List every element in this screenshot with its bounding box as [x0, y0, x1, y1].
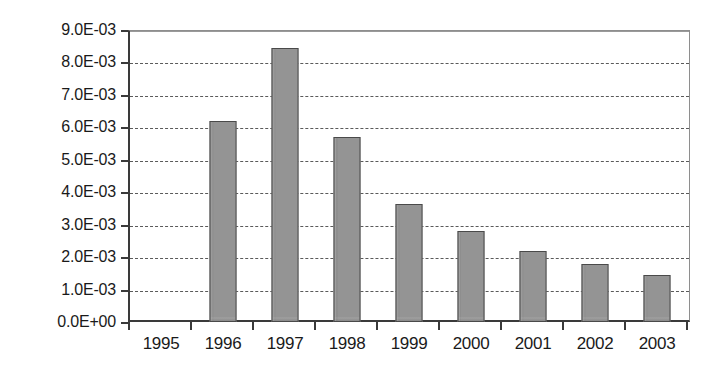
y-axis-tick-mark: [121, 160, 128, 162]
y-axis-tick-mark: [121, 95, 128, 97]
bar-slot: [316, 30, 378, 322]
x-axis-tick-mark: [252, 322, 254, 330]
y-axis-tick-label: 5.0E-03: [6, 151, 116, 169]
y-axis-tick-label: 7.0E-03: [6, 86, 116, 104]
bar-2001[interactable]: [520, 251, 547, 322]
y-axis-tick-mark: [121, 192, 128, 194]
y-axis-tick-mark: [121, 290, 128, 292]
bar-chart: 0.0E+001.0E-032.0E-033.0E-034.0E-035.0E-…: [0, 0, 724, 372]
bar-slot: [440, 30, 502, 322]
bar-2002[interactable]: [582, 264, 609, 322]
bar-1997[interactable]: [272, 48, 299, 322]
y-axis-tick-label: 8.0E-03: [6, 53, 116, 71]
x-axis-tick-label: 2002: [564, 334, 626, 354]
x-axis-tick-label: 2000: [440, 334, 502, 354]
bars-layer: [130, 30, 690, 322]
y-axis-tick-mark: [121, 30, 128, 32]
bar-1999[interactable]: [396, 204, 423, 322]
bar-slot: [130, 30, 192, 322]
bar-slot: [626, 30, 688, 322]
x-axis-tick-mark: [190, 322, 192, 330]
x-axis-tick-label: 1998: [316, 334, 378, 354]
y-axis-tick-label: 1.0E-03: [6, 281, 116, 299]
bar-1998[interactable]: [334, 137, 361, 322]
x-axis-tick-label: 1995: [130, 334, 192, 354]
x-axis-tick-label: 2001: [502, 334, 564, 354]
bar-slot: [254, 30, 316, 322]
y-axis-tick-mark: [121, 62, 128, 64]
x-axis-tick-mark: [438, 322, 440, 330]
y-axis-tick-label: 3.0E-03: [6, 216, 116, 234]
y-axis-tick-label: 6.0E-03: [6, 118, 116, 136]
x-axis-tick-label: 2003: [626, 334, 688, 354]
x-axis-tick-mark: [686, 322, 688, 330]
x-axis-tick-mark: [376, 322, 378, 330]
y-axis-tick-mark: [121, 127, 128, 129]
y-axis-tick-label: 0.0E+00: [6, 313, 116, 331]
x-axis-tick-mark: [128, 322, 130, 330]
y-axis-tick-mark: [121, 322, 128, 324]
x-axis-tick-mark: [500, 322, 502, 330]
y-axis-tick-label: 9.0E-03: [6, 21, 116, 39]
bar-slot: [378, 30, 440, 322]
y-axis-tick-mark: [121, 257, 128, 259]
x-axis-tick-label: 1997: [254, 334, 316, 354]
y-axis-tick-label: 2.0E-03: [6, 248, 116, 266]
y-axis-tick-mark: [121, 225, 128, 227]
bar-slot: [192, 30, 254, 322]
bar-1996[interactable]: [210, 121, 237, 322]
x-axis-tick-mark: [562, 322, 564, 330]
x-axis-tick-mark: [624, 322, 626, 330]
bar-2000[interactable]: [458, 231, 485, 322]
bar-slot: [564, 30, 626, 322]
y-axis-tick-label: 4.0E-03: [6, 183, 116, 201]
x-axis-tick-mark: [314, 322, 316, 330]
bar-2003[interactable]: [644, 275, 671, 322]
bar-slot: [502, 30, 564, 322]
x-axis-tick-label: 1996: [192, 334, 254, 354]
x-axis-tick-label: 1999: [378, 334, 440, 354]
